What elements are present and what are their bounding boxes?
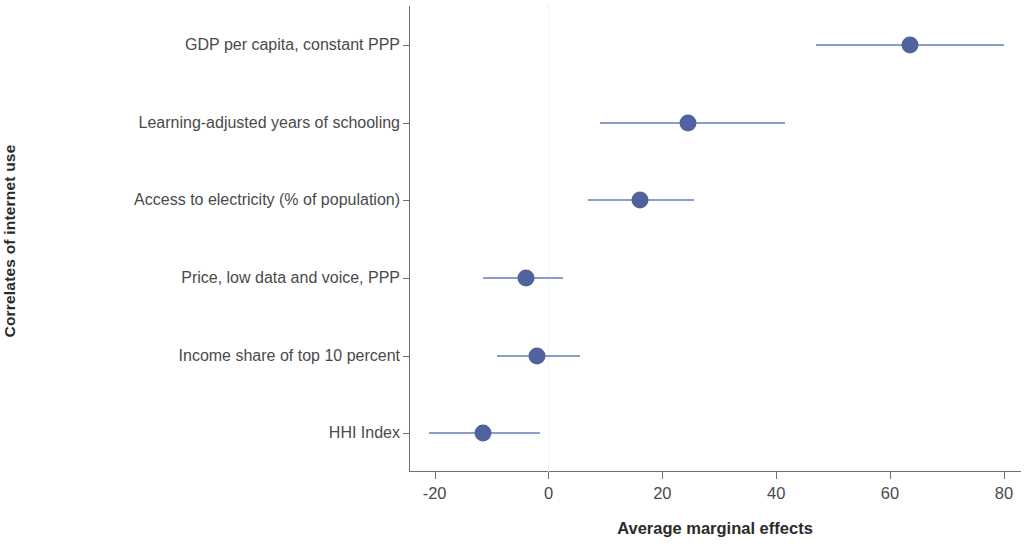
data-point	[529, 347, 546, 364]
y-axis-tick	[403, 123, 409, 124]
x-axis-tick-label: 60	[881, 484, 899, 503]
x-axis-tick	[776, 472, 777, 479]
zero-reference-line	[548, 6, 549, 472]
x-axis-tick	[435, 472, 436, 479]
x-axis-tick-label: 80	[995, 484, 1013, 503]
x-axis-tick-label: 20	[653, 484, 671, 503]
x-axis-title: Average marginal effects	[409, 519, 1021, 538]
y-axis-category-label: Learning-adjusted years of schooling	[4, 114, 400, 132]
data-point	[631, 192, 648, 209]
plot-area: -20020406080 GDP per capita, constant PP…	[409, 6, 1021, 472]
y-axis-category-label: Price, low data and voice, PPP	[4, 269, 400, 287]
y-axis-tick	[403, 200, 409, 201]
x-axis-spine	[409, 471, 1021, 472]
y-axis-category-label: Income share of top 10 percent	[4, 347, 400, 365]
x-axis-tick	[1004, 472, 1005, 479]
x-axis-tick	[662, 472, 663, 479]
x-axis-tick-label: 40	[767, 484, 785, 503]
y-axis-category-label: GDP per capita, constant PPP	[4, 36, 400, 54]
y-axis-spine	[409, 6, 410, 472]
y-axis-category-label: HHI Index	[4, 424, 400, 442]
x-axis-tick	[548, 472, 549, 479]
chart-figure: Correlates of internet use -20020406080 …	[0, 0, 1025, 547]
x-axis-tick-label: 0	[544, 484, 553, 503]
y-axis-tick	[403, 45, 409, 46]
y-axis-tick	[403, 356, 409, 357]
data-point	[679, 114, 696, 131]
x-axis-tick	[890, 472, 891, 479]
y-axis-title-text: Correlates of internet use	[1, 0, 19, 482]
data-point	[901, 36, 918, 53]
data-point	[475, 425, 492, 442]
y-axis-category-label: Access to electricity (% of population)	[4, 191, 400, 209]
y-axis-tick	[403, 433, 409, 434]
x-axis-tick-label: -20	[423, 484, 447, 503]
y-axis-tick	[403, 278, 409, 279]
data-point	[517, 269, 534, 286]
